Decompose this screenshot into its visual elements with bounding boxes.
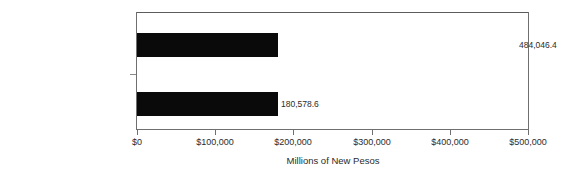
plot-frame-right <box>528 12 529 130</box>
x-axis-tick <box>293 130 294 135</box>
x-axis-tick <box>450 130 451 135</box>
bar-chart: 484,046.4 180,578.6 Mexico (excluding D.… <box>0 0 379 177</box>
x-axis-title: Millions of New Pesos <box>137 155 529 167</box>
y-axis-tick <box>130 74 136 75</box>
x-axis-tick <box>137 130 138 135</box>
x-axis-tick-label: $200,000 <box>274 137 312 148</box>
bar-value-label: 484,046.4 <box>519 40 557 50</box>
bar-value-label: 180,578.6 <box>281 99 319 109</box>
x-axis-tick <box>372 130 373 135</box>
x-axis-tick-label: $100,000 <box>196 137 234 148</box>
x-axis-tick-label: $300,000 <box>353 137 391 148</box>
x-axis-line <box>136 129 529 130</box>
x-axis-tick-label: $500,000 <box>509 137 547 148</box>
bar-mexico-excluding-df <box>137 33 278 57</box>
x-axis-tick-label: $400,000 <box>431 137 469 148</box>
x-axis-tick <box>215 130 216 135</box>
x-axis-tick-label: $0 <box>132 137 142 148</box>
x-axis-tick <box>528 130 529 135</box>
bar-distrito-federal <box>137 92 278 116</box>
plot-frame-top <box>137 12 529 13</box>
